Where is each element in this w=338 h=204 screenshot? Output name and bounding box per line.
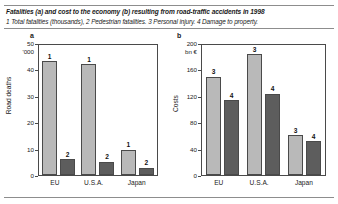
bar-series-label: 1 [126, 141, 130, 148]
x-axis-label: Japan [128, 179, 146, 186]
x-axis-label: EU [50, 179, 59, 186]
panel-b-y-tick-label: 0 [194, 173, 197, 179]
bar-series-label: 4 [312, 133, 316, 140]
panel-b-y-tick-label: 200 [187, 41, 197, 47]
bar [139, 168, 154, 175]
bar-item: 1 [42, 45, 57, 175]
panel-a-y-tick-label: 20 [27, 120, 34, 126]
bar-item: 3 [288, 45, 303, 175]
panel-b-y-tick-label: 120 [187, 94, 197, 100]
panel-a-plot-area: 121212 [38, 44, 158, 176]
bar-group-eu: 12 [42, 45, 75, 175]
panel-a-bars: 121212 [39, 45, 157, 175]
bar [60, 159, 75, 175]
chart-panels: a 01020304050'000 Road deaths 121212 EUU… [0, 30, 338, 197]
divider-bottom [4, 197, 334, 198]
bar-item: 3 [247, 45, 262, 175]
panel-a-y-tick-label: 0 [31, 173, 34, 179]
bar-item: 2 [99, 45, 114, 175]
panel-a-y-tick-mark [35, 176, 38, 177]
bar-group-usa: 12 [81, 45, 114, 175]
bar-series-label: 1 [87, 56, 91, 63]
bar-group-usa: 34 [247, 45, 280, 175]
panel-b-y-axis-unit: bn € [185, 49, 197, 55]
bar [81, 64, 96, 175]
panel-a-x-labels: EUU.S.A.Japan [38, 179, 158, 191]
x-axis-label: EU [214, 179, 223, 186]
panel-b-plot-area: 343434 [201, 44, 326, 176]
bar [206, 77, 221, 175]
caption-line-1: Fatalities (a) and cost to the economy (… [6, 7, 332, 17]
x-axis-label: U.S.A. [84, 179, 103, 186]
bar-item: 2 [139, 45, 154, 175]
caption-line-2: 1 Total fatalities (thousands), 2 Pedest… [6, 17, 332, 27]
figure-caption: Fatalities (a) and cost to the economy (… [6, 7, 332, 26]
panel-b-plot-frame: 343434 [201, 44, 326, 176]
panel-a-y-tick-label: 50 [27, 41, 34, 47]
x-axis-label: U.S.A. [250, 179, 269, 186]
panel-b-y-tick-mark [198, 176, 201, 177]
bar [42, 61, 57, 175]
bar [306, 141, 321, 175]
bar-series-label: 2 [66, 151, 70, 158]
panel-b: b 04080120160200bn € Costs 343434 EUU.S.… [169, 30, 338, 197]
figure-road-traffic-accidents: Fatalities (a) and cost to the economy (… [0, 0, 338, 204]
bar-series-label: 2 [105, 153, 109, 160]
bar-series-label: 2 [144, 159, 148, 166]
bar-group-eu: 34 [206, 45, 239, 175]
bar-series-label: 3 [294, 127, 298, 134]
bar [99, 162, 114, 175]
panel-a-y-axis-unit: '000 [22, 49, 34, 55]
bar [224, 100, 239, 175]
bar-item: 1 [121, 45, 136, 175]
bar-series-label: 1 [48, 53, 52, 60]
bar-item: 4 [224, 45, 239, 175]
bar-item: 1 [81, 45, 96, 175]
divider-top [4, 5, 334, 6]
panel-a-y-tick-label: 30 [27, 94, 34, 100]
panel-b-bars: 343434 [202, 45, 325, 175]
panel-b-x-labels: EUU.S.A.Japan [201, 179, 326, 191]
divider-caption [4, 28, 334, 29]
bar-item: 4 [306, 45, 321, 175]
x-axis-label: Japan [295, 179, 313, 186]
bar-series-label: 4 [271, 85, 275, 92]
panel-a-y-axis-title: Road deaths [5, 66, 12, 126]
panel-a-letter: a [30, 32, 34, 39]
bar-series-label: 3 [253, 46, 257, 53]
panel-a: a 01020304050'000 Road deaths 121212 EUU… [0, 30, 169, 197]
panel-b-y-axis-title: Costs [172, 74, 179, 134]
bar-group-japan: 12 [121, 45, 154, 175]
bar-group-japan: 34 [288, 45, 321, 175]
panel-b-letter: b [177, 32, 181, 39]
panel-b-y-tick-label: 160 [187, 67, 197, 73]
bar-item: 2 [60, 45, 75, 175]
bar-item: 3 [206, 45, 221, 175]
panel-b-y-tick-label: 80 [190, 120, 197, 126]
panel-a-y-tick-label: 40 [27, 67, 34, 73]
bar [265, 94, 280, 175]
bar-series-label: 3 [212, 68, 216, 75]
panel-b-y-tick-label: 40 [190, 147, 197, 153]
panel-a-plot-frame: 121212 [38, 44, 158, 176]
bar-item: 4 [265, 45, 280, 175]
panel-a-y-tick-label: 10 [27, 147, 34, 153]
bar-series-label: 4 [230, 92, 234, 99]
bar [288, 135, 303, 175]
bar [121, 150, 136, 175]
bar [247, 54, 262, 175]
